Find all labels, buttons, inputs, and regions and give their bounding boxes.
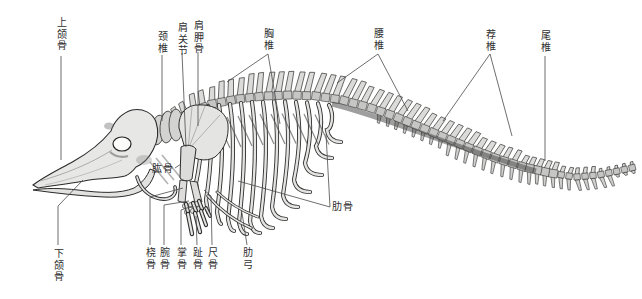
neural-spine [247,74,255,97]
vertebra-centrum [293,91,302,99]
neural-spine [304,72,315,94]
vertebra-centrum [582,173,589,180]
skull [33,110,176,200]
vertebra-centrum [302,92,311,100]
vertebra-centrum [574,174,581,181]
chevron-bone [575,180,581,191]
label-ulna: 尺骨 [206,247,217,270]
vertebra-centrum [566,173,573,180]
vertebra-centrum [605,169,613,176]
vertebra-centrum [549,169,559,178]
callout-sacral-left [443,54,490,121]
vertebra-centrum [613,168,620,175]
vertebra-centrum [597,171,604,178]
neural-spine [256,72,264,95]
neural-spine [294,72,305,94]
cranium-shadow [136,155,152,165]
label-shoulder-joint: 肩关节 [176,22,187,57]
vertebra-centrum [558,171,565,178]
chevron-bone [567,179,571,191]
naris-shadow [104,123,114,130]
callout-rib-right [326,134,330,207]
neural-spine [285,71,294,93]
vertebra-centrum [264,92,273,100]
label-costal-arch: 肋弓 [241,247,252,270]
label-radius: 桡骨 [144,247,155,270]
cranium-and-rostrum [33,110,158,188]
neural-spine [275,72,284,94]
label-phalanx: 趾骨 [191,247,202,270]
whale-skeleton-diagram: 上颌骨 颈椎 肩关节 肩胛骨 胸椎 腰椎 荐椎 尾椎 肱骨 肋骨 下颌骨 桡骨 … [0,0,642,299]
chevron-bone [591,178,597,189]
vertebra-centrum [321,93,331,102]
label-lumbar: 腰椎 [372,28,383,51]
vertebra-centrum [590,172,597,179]
vertebra-centrum [357,101,367,111]
label-scapula: 肩胛骨 [192,20,203,55]
label-thoracic: 胸椎 [262,28,273,51]
chevron-bone [607,175,614,186]
chevron-bone [600,177,607,188]
neural-spine [266,72,275,94]
label-caudal: 尾椎 [539,30,550,53]
vertebra-centrum [628,164,636,171]
chevron-bone [559,177,563,189]
callout-sacral-right [490,54,512,136]
label-rib: 肋骨 [332,201,354,212]
radius-bone [178,180,187,203]
humerus-bone [180,145,196,181]
vertebra-centrum [283,91,292,99]
label-carpal: 腕骨 [158,247,169,270]
vertebra-centrum [255,92,264,101]
chevron-bone [583,179,589,190]
label-sacral: 荐椎 [484,29,495,52]
label-upper-jaw: 上颌骨 [55,17,66,52]
vertebra-centrum [330,94,340,103]
vertebra-centrum [311,91,321,100]
label-lower-jaw: 下颌骨 [52,248,63,283]
label-cervical: 颈椎 [156,31,167,54]
callout-lumbar-left [337,54,378,83]
label-humerus: 肱骨 [152,163,174,174]
label-metacarpal: 掌骨 [175,247,186,270]
vertebra-centrum [621,166,629,173]
rib-bone-highlight [239,103,247,234]
rib-bone [283,102,298,208]
orbit [113,137,131,151]
